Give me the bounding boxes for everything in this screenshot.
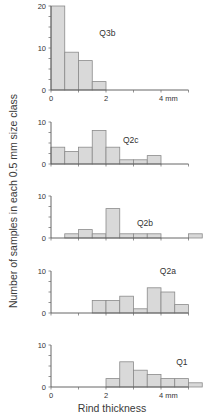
x-tick-label: 4 mm [159,94,178,103]
histogram-bar: Q2b 2.5-3 mm: 1 [120,234,134,238]
histogram-bar: Q1 4-4.5 mm: 2 [161,379,175,387]
histogram-figure: Q3b 0-0.5 mm: 20Q3b 0.5-1 mm: 9Q3b 1-1.5… [0,0,207,420]
histogram-bar: Q1 3-3.5 mm: 4 [134,370,148,387]
histogram-bar: Q2b 5-5.5 mm: 1 [189,234,203,238]
panel-label-q2b: Q2b [137,218,153,228]
y-tick-label: 10 [38,341,46,350]
histogram-bar: Q2b 0.5-1 mm: 1 [65,234,79,238]
histogram-bar: Q2a 2-2.5 mm: 3 [106,300,120,313]
histogram-bar: Q1 4.5-5 mm: 2 [175,379,189,387]
histogram-bar: Q2a 4.5-5 mm: 2 [175,305,189,313]
x-tick-label: 0 [49,94,53,103]
histogram-bar: Q2b 1-1.5 mm: 2 [79,230,93,238]
histogram-bar: Q1 2.5-3 mm: 6 [120,362,134,387]
histogram-bar: Q2c 3.5-4 mm: 2 [147,156,161,164]
y-tick-label: 10 [38,267,46,276]
y-tick-label: 0 [42,383,46,392]
histogram-bar: Q3b 1-1.5 mm: 7 [79,61,93,90]
histogram-bar: Q2c 3-3.5 mm: 1 [134,160,148,164]
y-tick-label: 0 [42,234,46,243]
histogram-bar: Q1 2-2.5 mm: 2 [106,379,120,387]
panel-q3b: Q3b 0-0.5 mm: 20Q3b 0.5-1 mm: 9Q3b 1-1.5… [38,2,189,103]
histogram-bar: Q2a 4-4.5 mm: 5 [161,292,175,313]
panel-label-q2a: Q2a [160,266,176,276]
x-tick-label: 0 [49,391,53,400]
histogram-bar: Q2c 2-2.5 mm: 4 [106,147,120,164]
histogram-bar: Q3b 0.5-1 mm: 9 [65,52,79,90]
histogram-bar: Q2a 3-3.5 mm: 1 [134,309,148,313]
panel-label-q1: Q1 [176,357,188,367]
x-tick-label: 2 [104,94,108,103]
y-tick-label: 20 [38,2,46,11]
histogram-bar: Q3b 0-0.5 mm: 20 [51,6,65,90]
y-axis-title: Number of samples in each 0.5 mm size cl… [7,94,19,308]
histogram-bar: Q2c 0-0.5 mm: 4 [51,147,65,164]
panel-q2c: Q2c 0-0.5 mm: 4Q2c 0.5-1 mm: 3Q2c 1-1.5 … [38,118,189,169]
histogram-bar: Q2b 3-3.5 mm: 1 [134,234,148,238]
y-tick-label: 0 [42,160,46,169]
x-tick-label: 2 [104,391,108,400]
histogram-bar: Q2b 1.5-2 mm: 1 [92,234,106,238]
panel-q2a: Q2a 1.5-2 mm: 3Q2a 2-2.5 mm: 3Q2a 2.5-3 … [38,266,189,318]
histogram-bar: Q2b 3.5-4 mm: 1 [147,234,161,238]
y-tick-label: 0 [42,86,46,95]
histogram-bar: Q2a 1.5-2 mm: 3 [92,300,106,313]
histogram-panels: Q3b 0-0.5 mm: 20Q3b 0.5-1 mm: 9Q3b 1-1.5… [0,0,207,420]
histogram-bar: Q2c 2.5-3 mm: 1 [120,160,134,164]
x-tick-label: 4 mm [159,391,178,400]
panel-q2b: Q2b 0.5-1 mm: 1Q2b 1-1.5 mm: 2Q2b 1.5-2 … [38,192,203,243]
y-tick-label: 10 [38,192,46,201]
x-axis-title: Rind thickness [78,402,146,414]
histogram-bar: Q1 3.5-4 mm: 3 [147,374,161,387]
y-tick-label: 10 [38,44,46,53]
panels-group: Q3b 0-0.5 mm: 20Q3b 0.5-1 mm: 9Q3b 1-1.5… [38,2,203,400]
y-tick-label: 10 [38,118,46,127]
panel-label-q3b: Q3b [99,28,115,38]
y-tick-label: 0 [42,309,46,318]
histogram-bar: Q2a 3.5-4 mm: 6 [147,288,161,313]
histogram-bar: Q2c 1-1.5 mm: 4 [79,147,93,164]
panel-q1: Q1 2-2.5 mm: 2Q1 2.5-3 mm: 6Q1 3-3.5 mm:… [38,341,203,400]
histogram-bar: Q1 5-5.5 mm: 1 [189,383,203,387]
histogram-bar: Q2c 1.5-2 mm: 8 [92,130,106,164]
histogram-bar: Q2b 2-2.5 mm: 7 [106,209,120,238]
histogram-bar: Q2c 0.5-1 mm: 3 [65,151,79,164]
histogram-bar: Q2a 2.5-3 mm: 4 [120,296,134,313]
panel-label-q2c: Q2c [123,135,139,145]
histogram-bar: Q3b 1.5-2 mm: 2 [92,82,106,90]
